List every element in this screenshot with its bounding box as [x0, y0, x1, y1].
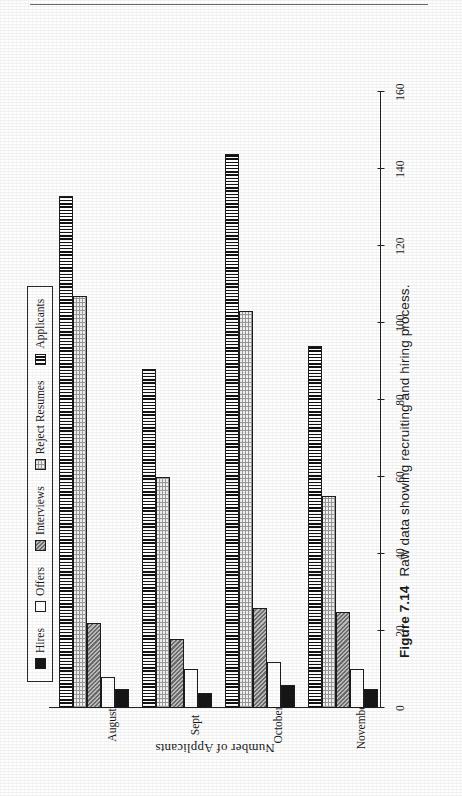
scanned-page: 7.4 MANAGING INNOVATION HiresOffersInter…	[0, 0, 462, 796]
y-tick-mark	[378, 168, 385, 169]
y-tick-mark	[378, 399, 385, 400]
running-head-rule	[30, 4, 428, 5]
bar-offers	[184, 670, 198, 709]
legend-item-offers: Offers	[34, 567, 46, 612]
y-tick-label: 0	[394, 691, 406, 725]
legend-item-interviews: Interviews	[34, 486, 46, 551]
legend-item-label: Offers	[34, 567, 46, 596]
y-tick-mark	[378, 553, 385, 554]
solid-black-swatch	[35, 658, 46, 669]
legend-item-reject-resumes: Reject Resumes	[34, 381, 46, 471]
legend-item-label: Interviews	[34, 486, 46, 535]
bar-interviews	[170, 639, 184, 708]
bar-hires	[364, 689, 378, 708]
bar-hires	[115, 689, 129, 708]
bar-applicants	[142, 369, 156, 708]
y-tick-mark	[378, 322, 385, 323]
bar-offers	[267, 662, 281, 708]
vertical-stripe-swatch	[35, 354, 46, 365]
white-swatch	[35, 601, 46, 612]
figure-caption-text: Raw data showing recruiting and hiring p…	[397, 285, 412, 577]
figure-block: HiresOffersInterviewsReject ResumesAppli…	[31, 54, 431, 754]
legend-item-hires: Hires	[34, 628, 46, 669]
bar-interviews	[336, 612, 350, 708]
gray-checker-swatch	[35, 540, 46, 551]
y-tick-mark	[378, 476, 385, 477]
bar-chart: Number of Applicants 0204060801001201401…	[49, 92, 381, 708]
y-tick-mark	[378, 245, 385, 246]
bar-offers	[350, 670, 364, 709]
bar-hires	[281, 685, 295, 708]
bar-interviews	[87, 623, 101, 708]
light-dotted-swatch	[35, 459, 46, 470]
bar-reject-resumes	[73, 296, 87, 708]
bar-reject-resumes	[156, 477, 170, 708]
figure-caption: Figure 7.14Raw data showing recruiting a…	[397, 98, 412, 658]
legend-item-label: Reject Resumes	[34, 381, 46, 455]
bar-applicants	[59, 196, 73, 708]
y-axis-title: Number of Applicants	[105, 740, 325, 756]
bar-offers	[101, 677, 115, 708]
legend-item-label: Hires	[34, 628, 46, 653]
legend-item-applicants: Applicants	[34, 299, 46, 365]
y-tick-mark	[378, 630, 385, 631]
y-tick-mark	[378, 91, 385, 92]
running-head: 7.4 MANAGING INNOVATION	[8, 0, 428, 8]
legend-item-label: Applicants	[34, 299, 46, 349]
bar-applicants	[225, 154, 239, 708]
bar-interviews	[253, 608, 267, 708]
running-head-text: 7.4 MANAGING INNOVATION	[8, 0, 428, 2]
bar-hires	[198, 693, 212, 708]
y-tick-mark	[378, 707, 385, 708]
figure-number: Figure 7.14	[397, 586, 412, 658]
bar-applicants	[308, 346, 322, 708]
bar-reject-resumes	[239, 311, 253, 708]
bar-reject-resumes	[322, 496, 336, 708]
